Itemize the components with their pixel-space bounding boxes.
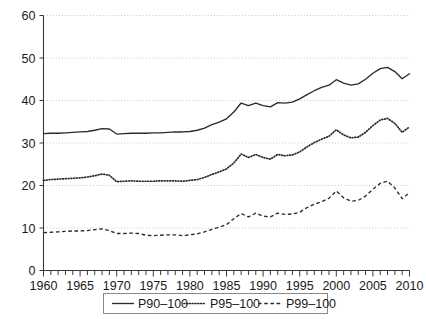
y-axis-tick-label: 0: [29, 264, 36, 278]
x-axis-tick-label: 1970: [103, 279, 131, 293]
data-series-group: [44, 67, 410, 235]
y-axis-tick-label: 30: [22, 137, 36, 151]
gridlines: [44, 16, 410, 271]
legend-label-p95-100: P95–100: [210, 297, 260, 311]
chart-container: 0102030405060 19601965197019751980198519…: [0, 0, 426, 319]
chart-legend: P90–100P95–100P99–100: [104, 294, 337, 314]
x-axis-tick-label: 2005: [359, 279, 387, 293]
y-axis-tick-label: 10: [22, 222, 36, 236]
x-axis-tick-label: 1990: [249, 279, 277, 293]
line-chart: 0102030405060 19601965197019751980198519…: [0, 0, 426, 319]
series-line-p99-100: [44, 181, 410, 235]
x-axis-tick-label: 1960: [30, 279, 58, 293]
x-axis-tick-label: 1980: [176, 279, 204, 293]
y-axis-tick-label: 20: [22, 179, 36, 193]
legend-label-p99-100: P99–100: [286, 297, 336, 311]
x-axis-tick-label: 1995: [286, 279, 314, 293]
legend-label-p90-100: P90–100: [138, 297, 188, 311]
x-axis-tick-label: 2010: [396, 279, 424, 293]
x-axis-tick-label: 2000: [322, 279, 350, 293]
y-axis-tick-labels: 0102030405060: [22, 9, 36, 278]
x-axis-tick-label: 1985: [213, 279, 241, 293]
x-axis-tick-labels: 1960196519701975198019851990199520002005…: [30, 279, 424, 293]
y-axis-tick-label: 50: [22, 52, 36, 66]
y-axis-tick-label: 40: [22, 94, 36, 108]
y-axis-tick-label: 60: [22, 9, 36, 23]
series-line-p95-100: [44, 118, 410, 181]
x-axis-tick-label: 1975: [139, 279, 167, 293]
x-axis-tick-label: 1965: [66, 279, 94, 293]
x-axis: [44, 271, 410, 277]
y-axis: [40, 16, 44, 271]
